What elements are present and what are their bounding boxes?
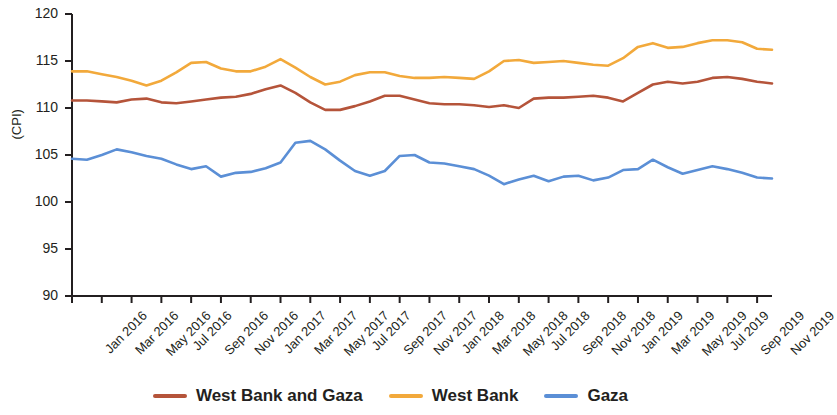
legend-swatch-icon xyxy=(544,394,578,398)
chart-axes xyxy=(65,14,772,303)
y-tick-label: 95 xyxy=(26,241,58,255)
y-axis-label: (CPI) xyxy=(9,112,24,140)
y-tick-label: 110 xyxy=(26,100,58,114)
legend-label: Gaza xyxy=(587,386,628,406)
legend-swatch-icon xyxy=(389,394,423,398)
y-tick-label: 115 xyxy=(26,53,58,67)
legend-item[interactable]: West Bank xyxy=(389,386,519,406)
series-line-west-bank xyxy=(72,40,772,85)
legend-label: West Bank and Gaza xyxy=(196,386,363,406)
chart-series xyxy=(72,40,772,184)
axis-lines xyxy=(72,14,772,296)
legend-label: West Bank xyxy=(432,386,519,406)
y-tick-label: 100 xyxy=(26,194,58,208)
y-tick-label: 90 xyxy=(26,288,58,302)
series-line-gaza xyxy=(72,141,772,184)
legend-swatch-icon xyxy=(153,394,187,398)
legend-item[interactable]: Gaza xyxy=(544,386,628,406)
y-tick-label: 120 xyxy=(26,6,58,20)
chart-legend: West Bank and GazaWest BankGaza xyxy=(0,386,781,406)
legend-item[interactable]: West Bank and Gaza xyxy=(153,386,363,406)
y-tick-label: 105 xyxy=(26,147,58,161)
series-line-west-bank-and-gaza xyxy=(72,77,772,110)
